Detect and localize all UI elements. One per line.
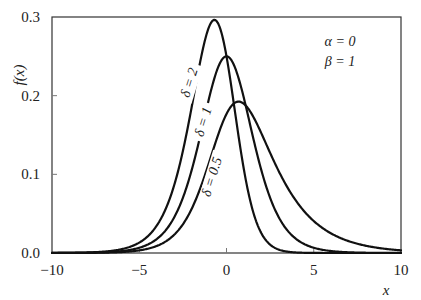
axis-ticks <box>52 96 314 253</box>
x-axis-tick-labels: −10−50510 <box>40 262 408 278</box>
y-axis-title: f(x) <box>11 65 28 86</box>
y-tick-label: 0.0 <box>21 245 40 261</box>
curve-labels: δ = 2δ = 1δ = 0.5 <box>176 62 227 205</box>
curve-label-delta-2: δ = 2 <box>176 62 203 104</box>
y-tick-label: 0.3 <box>21 9 40 25</box>
x-axis-title: x <box>382 282 390 298</box>
x-tick-label: −5 <box>131 262 147 278</box>
curve-label-delta-0-5: δ = 0.5 <box>197 149 228 204</box>
y-tick-label: 0.2 <box>21 88 40 104</box>
svg-text:δ = 0.5: δ = 0.5 <box>199 155 225 198</box>
x-tick-label: −10 <box>40 262 63 278</box>
x-tick-label: 10 <box>394 262 409 278</box>
plot-area: δ = 2δ = 1δ = 0.5 <box>52 17 401 253</box>
curve-delta-0-5 <box>52 102 401 253</box>
y-axis-tick-labels: 0.00.10.20.3 <box>21 9 40 261</box>
alpha-annotation: α = 0 <box>325 34 356 49</box>
x-tick-label: 0 <box>223 262 231 278</box>
curve-label-delta-1: δ = 1 <box>190 101 217 143</box>
beta-annotation: β = 1 <box>324 54 355 69</box>
x-tick-label: 5 <box>310 262 318 278</box>
y-tick-label: 0.1 <box>21 166 40 182</box>
chart-canvas: δ = 2δ = 1δ = 0.5 −10−50510 0.00.10.20.3… <box>0 0 421 300</box>
